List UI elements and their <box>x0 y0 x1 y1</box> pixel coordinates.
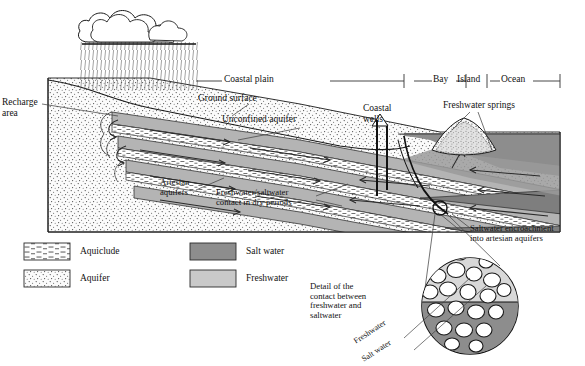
zone-label-ocean: Ocean <box>501 74 525 85</box>
zone-label-bay: Bay <box>433 74 448 85</box>
precipitation-group <box>78 11 198 91</box>
legend-swatches <box>24 243 236 287</box>
cross-section-block <box>42 11 562 297</box>
zone-label-coastal-plain: Coastal plain <box>224 74 274 85</box>
legend-label-salt-water: Salt water <box>246 246 284 257</box>
detail-inset <box>404 248 518 358</box>
label-saltwater-encroachment: Saltwater encroachment into artesian aqu… <box>470 224 554 243</box>
label-ground-surface: Ground surface <box>198 93 257 104</box>
zone-label-island: Island <box>457 74 480 85</box>
label-freshwater-springs: Freshwater springs <box>443 100 515 111</box>
legend-label-aquiclude: Aquiclude <box>80 246 120 257</box>
label-recharge-area: Recharge area <box>2 97 38 118</box>
label-unconfined-aquifer: Unconfined aquifer <box>222 114 296 125</box>
diagram-canvas <box>0 0 585 366</box>
figure-root: Coastal plain Bay Island Ocean Recharge … <box>0 0 585 366</box>
label-coastal-wells: Coastal wells <box>363 103 392 124</box>
legend-label-freshwater: Freshwater <box>246 273 288 284</box>
cloud-icon <box>78 11 187 43</box>
label-artesian-aquifers: Artesian aquifers <box>160 178 189 197</box>
legend-label-aquifer: Aquifer <box>80 273 110 284</box>
label-contact-dry-periods: Freshwater/saltwater contact in dry peri… <box>216 188 292 207</box>
detail-caption: Detail of the contact between freshwater… <box>310 282 366 321</box>
rain-streaks <box>80 42 198 90</box>
